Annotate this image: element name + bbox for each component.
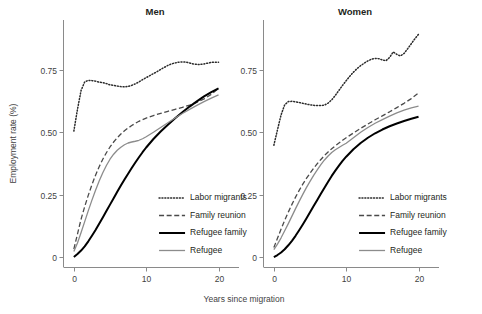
x-tick-label: 0 [272,274,277,284]
legend-label: Refugee family [190,227,247,237]
y-tick-label: 0.25 [40,191,57,201]
series-line-family-reunion [274,93,419,248]
series-line-family-reunion [74,88,219,249]
legend-label: Family reunion [390,210,446,220]
legend-label: Family reunion [190,210,246,220]
legend-item[interactable]: Refugee [359,245,422,255]
legend-label: Refugee [390,245,422,255]
legend-item[interactable]: Family reunion [359,210,446,220]
y-tick-label: 0.50 [40,128,57,138]
legend-item[interactable]: Refugee family [359,227,447,237]
legend-item[interactable]: Labor migrants [359,192,447,202]
chart-canvas: Men00.250.500.7501020Labor migrantsFamil… [0,0,482,314]
legend-item[interactable]: Labor migrants [159,192,247,202]
x-tick-label: 20 [415,274,425,284]
series-line-labor-migrants [74,62,219,131]
legend-label: Labor migrants [390,192,447,202]
x-axis-title: Years since migration [204,294,285,304]
legend-label: Labor migrants [190,192,247,202]
legend: Labor migrantsFamily reunionRefugee fami… [159,192,247,255]
y-axis-title: Employment rate (%) [8,103,18,183]
panel-title-women: Women [338,6,372,17]
panel-title-men: Men [146,6,165,17]
y-tick-label: 0.25 [240,191,257,201]
women-panel: Women00.250.500.7501020Labor migrantsFam… [240,6,447,284]
x-tick-label: 20 [215,274,225,284]
series-line-labor-migrants [274,34,419,145]
legend-label: Refugee family [390,227,447,237]
y-tick-label: 0 [52,253,57,263]
legend-item[interactable]: Refugee [159,245,222,255]
legend-item[interactable]: Refugee family [159,227,247,237]
y-tick-label: 0.50 [240,128,257,138]
x-tick-label: 10 [342,274,352,284]
legend-item[interactable]: Family reunion [159,210,246,220]
legend: Labor migrantsFamily reunionRefugee fami… [359,192,447,255]
legend-label: Refugee [190,245,222,255]
y-tick-label: 0.75 [40,66,57,76]
x-tick-label: 0 [72,274,77,284]
x-tick-label: 10 [142,274,152,284]
employment-rate-figure: Men00.250.500.7501020Labor migrantsFamil… [0,0,482,314]
y-tick-label: 0.75 [240,66,257,76]
y-tick-label: 0 [252,253,257,263]
men-panel: Men00.250.500.7501020Labor migrantsFamil… [40,6,247,284]
